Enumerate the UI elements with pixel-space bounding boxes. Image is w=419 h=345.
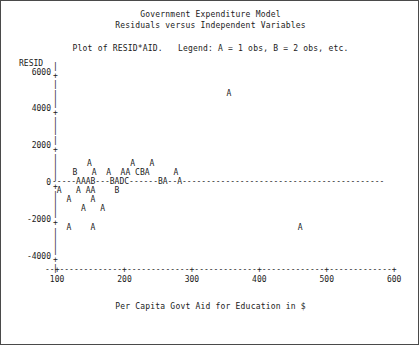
y-axis-label: RESID	[19, 59, 43, 68]
zero-reference-line: -----AAAB---BADC------BA--A-------------…	[52, 177, 384, 186]
data-row--700: A A	[52, 195, 95, 204]
page-title: Government Expenditure Model	[1, 9, 419, 20]
page-subtitle: Residuals versus Independent Variables	[1, 20, 419, 31]
x-axis-label: Per Capita Govt Aid for Education in $	[1, 302, 419, 312]
data-row-350: B A A AA CBA A	[58, 168, 178, 177]
y-tick--4000: -4000	[11, 252, 51, 261]
y-tick-0: 0	[11, 178, 51, 187]
plot-legend: Plot of RESID*AID. Legend: A = 1 obs, B …	[1, 43, 419, 54]
data-row--350: A A AA B	[52, 186, 119, 195]
y-tick-2000: 2000	[11, 141, 51, 150]
x-axis-line: --+-------------+-------------+---------…	[45, 265, 397, 274]
y-tick-4000: 4000	[11, 104, 51, 113]
x-axis-tick-labels: 100 200 300 400 500 600	[45, 275, 401, 284]
plot-area: RESID 6000 4000 2000 0 -2000 -4000 | + |…	[1, 59, 419, 309]
data-row--1050: A A	[52, 204, 105, 213]
y-tick-6000: 6000	[11, 68, 51, 77]
residual-plot-page: Government Expenditure Model Residuals v…	[0, 0, 419, 345]
data-row-4700: A	[58, 89, 231, 98]
data-row--2050: A A A	[52, 223, 302, 232]
y-tick--2000: -2000	[11, 215, 51, 224]
data-row-700: A A A	[58, 159, 154, 168]
plot-title-block: Government Expenditure Model Residuals v…	[1, 9, 419, 31]
